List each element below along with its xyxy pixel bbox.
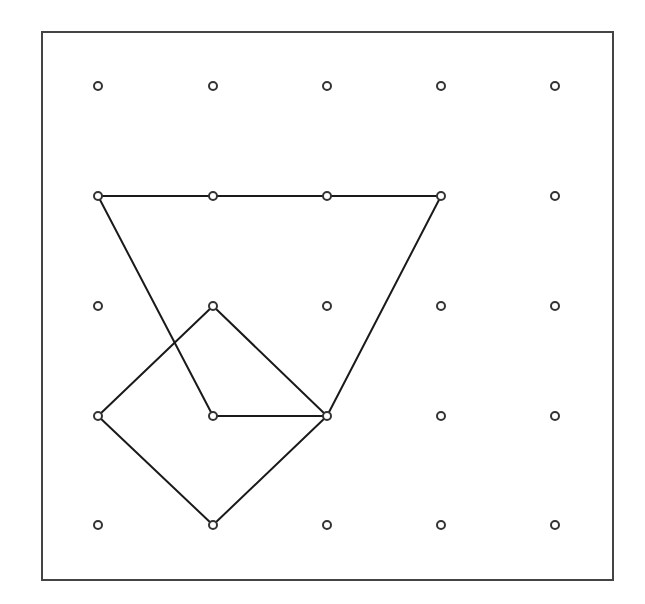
peg-icon <box>209 192 217 200</box>
peg-icon <box>437 412 445 420</box>
peg-icon <box>551 82 559 90</box>
peg-icon <box>323 192 331 200</box>
peg-icon <box>323 82 331 90</box>
peg-icon <box>209 82 217 90</box>
peg-icon <box>551 412 559 420</box>
peg-icon <box>437 82 445 90</box>
peg-icon <box>209 521 217 529</box>
peg-icon <box>94 82 102 90</box>
peg-icon <box>323 412 331 420</box>
shapes-layer <box>98 196 441 525</box>
peg-icon <box>209 412 217 420</box>
peg-icon <box>437 521 445 529</box>
peg-icon <box>94 192 102 200</box>
peg-icon <box>94 521 102 529</box>
peg-icon <box>323 302 331 310</box>
peg-icon <box>209 302 217 310</box>
peg-icon <box>437 302 445 310</box>
peg-icon <box>94 302 102 310</box>
trapezoid-shape <box>98 196 441 416</box>
peg-icon <box>551 521 559 529</box>
geoboard-diagram <box>0 0 645 604</box>
peg-icon <box>94 412 102 420</box>
peg-icon <box>551 192 559 200</box>
peg-icon <box>437 192 445 200</box>
peg-icon <box>323 521 331 529</box>
peg-icon <box>551 302 559 310</box>
pegs-layer <box>94 82 559 529</box>
